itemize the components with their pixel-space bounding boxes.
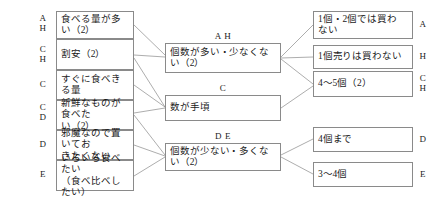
middle-tag-1: C	[165, 84, 281, 94]
middle-node-1-text: 数が手頃	[170, 102, 276, 114]
left-node-2-text: すぐに食べきる量	[61, 74, 129, 97]
left-node-1-text: 割安（2）	[61, 49, 129, 61]
right-tag-0: A	[414, 20, 432, 30]
middle-node-0[interactable]: 個数が多い・少なくな い（2）	[165, 43, 281, 73]
left-node-0[interactable]: 食べる量が多い（2）	[56, 11, 134, 39]
middle-node-0-text: 個数が多い・少なくな い（2）	[170, 47, 276, 70]
left-tag-4: D	[34, 140, 52, 150]
middle-tag-0: A H	[165, 32, 281, 42]
left-node-0-text: 食べる量が多い（2）	[61, 14, 129, 37]
right-node-1-text: 1個売りは買わない	[318, 51, 408, 63]
right-node-2-text: 4〜5個（2）	[318, 78, 408, 90]
edge-left2-middle1	[134, 85, 165, 107]
edge-left3-middle2	[134, 115, 165, 155]
left-node-1[interactable]: 割安（2）	[56, 39, 134, 70]
middle-node-1[interactable]: 数が手頃	[165, 95, 281, 121]
right-node-3[interactable]: 4個まで	[313, 127, 413, 152]
edge-middle2-right3	[281, 139, 313, 155]
left-tag-2: C	[34, 80, 52, 90]
affinity-diagram: A H C H C C D D E 食べる量が多い（2） 割安（2） すぐに食べ…	[0, 0, 438, 197]
left-tag-5: E	[34, 170, 52, 180]
middle-node-2[interactable]: 個数が少ない・多くな い（2）	[165, 143, 281, 171]
left-tag-0: A H	[34, 14, 52, 33]
right-node-3-text: 4個まで	[318, 134, 408, 146]
edge-middle1-right2	[281, 86, 313, 108]
edge-left4-middle2	[134, 145, 165, 156]
edge-left3-middle1	[134, 108, 165, 113]
right-tag-1: H	[414, 52, 432, 62]
edge-middle0-right0	[281, 25, 313, 57]
left-node-5[interactable]: いろいろ食べたい （食べ比べしたい）	[56, 160, 134, 191]
edge-middle2-right4	[281, 157, 313, 174]
left-tag-1: C H	[34, 45, 52, 64]
left-tag-3: C D	[34, 103, 52, 122]
edge-left1-middle1	[134, 58, 165, 107]
middle-tag-2: D E	[165, 132, 281, 142]
left-node-3[interactable]: 新鮮なものが食べた い（2）	[56, 100, 134, 130]
right-node-0[interactable]: 1個・2個では買わ ない	[313, 11, 413, 39]
middle-node-2-text: 個数が少ない・多くな い（2）	[170, 146, 276, 169]
left-node-5-text: いろいろ食べたい （食べ比べしたい）	[61, 153, 129, 198]
right-tag-3: D	[414, 135, 432, 145]
edge-middle0-right2	[281, 59, 313, 84]
edge-left1-middle0	[134, 55, 165, 57]
right-node-4[interactable]: 3〜4個	[313, 162, 413, 187]
right-tag-4: E	[414, 170, 432, 180]
right-node-4-text: 3〜4個	[318, 169, 408, 181]
edge-left0-middle0	[134, 25, 165, 55]
left-node-2[interactable]: すぐに食べきる量	[56, 70, 134, 100]
edge-left5-middle2	[134, 157, 165, 176]
right-node-0-text: 1個・2個では買わ ない	[318, 14, 408, 37]
edge-middle0-right1	[281, 57, 313, 58]
right-tag-2: C H	[414, 74, 432, 93]
right-node-2[interactable]: 4〜5個（2）	[313, 71, 413, 97]
right-node-1[interactable]: 1個売りは買わない	[313, 45, 413, 69]
